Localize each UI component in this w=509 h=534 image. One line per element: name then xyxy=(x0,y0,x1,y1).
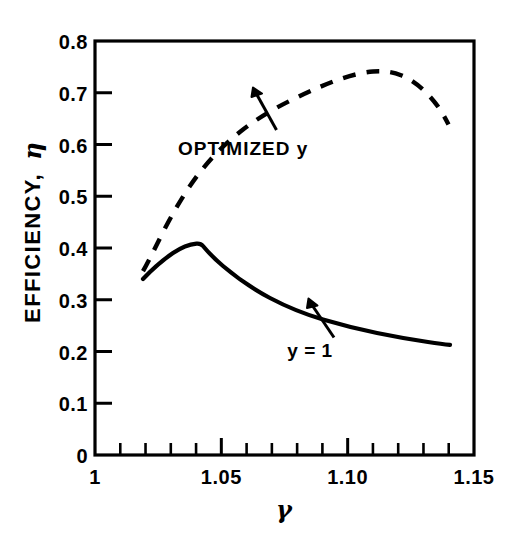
x-tick-label-1: 1 xyxy=(89,466,101,488)
y-tick-label-0.3: 0.3 xyxy=(59,290,88,312)
y-axis-title-text: EFFICIENCY, xyxy=(20,173,45,323)
x-axis-major-ticks xyxy=(221,438,347,455)
x-axis-minor-ticks xyxy=(120,443,448,455)
y-tick-label-0.7: 0.7 xyxy=(59,83,88,105)
x-axis-title-symbol: γ xyxy=(276,495,293,524)
y-axis-title-symbol: η xyxy=(18,142,47,159)
y-tick-label-0.5: 0.5 xyxy=(59,186,88,208)
x-tick-label-1.05: 1.05 xyxy=(201,466,242,488)
y-axis-tick-labels: 0.8 0.7 0.6 0.5 0.4 0.3 0.2 0.1 0 xyxy=(59,31,89,467)
chart-figure: 0.8 0.7 0.6 0.5 0.4 0.3 0.2 0.1 0 xyxy=(0,0,509,534)
y-tick-label-0.1: 0.1 xyxy=(59,393,88,415)
x-axis-title: γ xyxy=(276,495,293,524)
y-tick-label-0.8: 0.8 xyxy=(59,31,88,53)
annotation-optimized-y: OPTIMIZED y xyxy=(178,88,308,160)
series-y-equals-1 xyxy=(143,244,450,345)
annotation-optimized-y-label: OPTIMIZED y xyxy=(178,138,308,159)
x-axis-tick-labels: 1 1.05 1.10 1.15 xyxy=(89,466,494,488)
series-optimized-y xyxy=(143,71,449,271)
efficiency-vs-gamma-chart: 0.8 0.7 0.6 0.5 0.4 0.3 0.2 0.1 0 xyxy=(0,0,509,534)
y-tick-label-0.2: 0.2 xyxy=(59,342,88,364)
y-tick-label-0.4: 0.4 xyxy=(59,238,89,260)
y-tick-label-0: 0 xyxy=(76,445,88,467)
x-tick-label-1.10: 1.10 xyxy=(327,466,368,488)
x-tick-label-1.15: 1.15 xyxy=(454,466,495,488)
y-tick-label-0.6: 0.6 xyxy=(59,135,88,157)
y-axis-ticks xyxy=(95,93,112,404)
annotation-y-equals-1-label: y = 1 xyxy=(287,340,332,361)
y-axis-title: EFFICIENCY, η xyxy=(18,142,47,323)
